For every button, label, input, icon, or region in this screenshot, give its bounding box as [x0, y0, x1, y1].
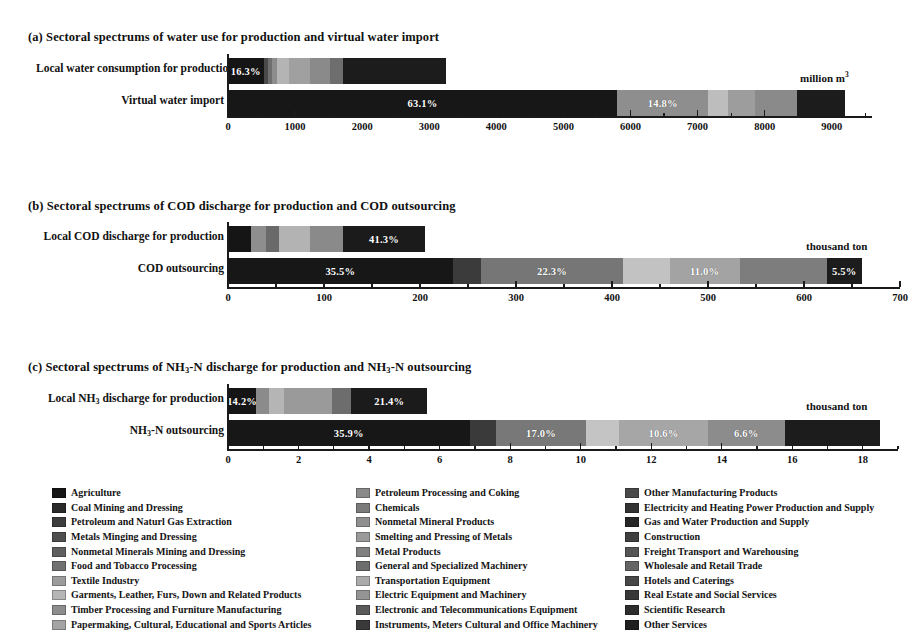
legend-item: Construction — [625, 530, 874, 545]
legend-label: Freight Transport and Warehousing — [644, 547, 798, 557]
bar-segment: 6.6% — [708, 420, 786, 446]
panel-c-row1-sub: 3 — [147, 429, 151, 438]
x-axis-tick — [563, 284, 564, 288]
x-axis-tick-label: 4000 — [486, 121, 507, 132]
bar-segment — [279, 226, 310, 252]
bar-segment: 14.2% — [228, 388, 256, 414]
bar-segment: 41.3% — [343, 226, 425, 252]
bar-segment: 16.3% — [228, 58, 264, 84]
bar-segment — [623, 258, 670, 284]
x-axis-tick-label: 9000 — [821, 121, 842, 132]
panel-c-title-part2: -N discharge for production and NH — [189, 360, 386, 374]
panel-a-title: (a) Sectoral spectrums of water use for … — [28, 30, 439, 45]
bar-segment — [330, 58, 343, 84]
bar-segment — [708, 90, 727, 116]
legend-label: Wholesale and Retail Trade — [644, 561, 762, 571]
x-axis-line-c — [228, 449, 898, 451]
legend-label: Metal Products — [375, 547, 441, 557]
x-axis-tick — [362, 110, 363, 116]
legend-label: Garments, Leather, Furs, Down and Relate… — [71, 590, 301, 600]
legend-label: Hotels and Caterings — [644, 576, 734, 586]
legend-label: Petroleum Processing and Coking — [375, 488, 519, 498]
legend-label: Electric Equipment and Machinery — [375, 590, 526, 600]
legend-color-swatch — [625, 503, 639, 513]
bar-segment — [470, 420, 496, 446]
bar-segment — [266, 226, 278, 252]
x-axis-tick — [764, 110, 765, 116]
legend-label: Transportation Equipment — [375, 576, 490, 586]
legend-item: Real Estate and Social Services — [625, 588, 874, 603]
x-axis-tick — [395, 113, 396, 117]
x-axis-tick — [659, 284, 660, 288]
x-axis-tick — [756, 446, 757, 450]
x-axis-tick-label: 12 — [646, 454, 657, 465]
x-axis-tick — [275, 284, 276, 288]
x-axis-tick — [707, 281, 708, 287]
bar-segment: 5.5% — [827, 258, 862, 284]
bar-a-0: 16.3% — [228, 58, 446, 84]
legend-color-swatch — [52, 620, 66, 630]
x-axis-tick-label: 3000 — [419, 121, 440, 132]
legend-column-2: Petroleum Processing and CokingChemicals… — [356, 486, 598, 632]
x-axis-tick — [563, 110, 564, 116]
x-axis-tick — [261, 113, 262, 117]
x-axis-tick-label: 0 — [225, 292, 230, 303]
legend-column-3: Other Manufacturing ProductsElectricity … — [625, 486, 874, 632]
legend-color-swatch — [356, 590, 370, 600]
panel-a-row-label-0: Local water consumption for production — [36, 62, 224, 74]
legend-label: Scientific Research — [644, 605, 725, 615]
legend-item: Metals Minging and Dressing — [52, 530, 311, 545]
x-axis-tick — [298, 443, 299, 449]
bar-b-0: 41.3% — [228, 226, 425, 252]
x-axis-tick — [792, 443, 793, 449]
x-axis-tick — [899, 281, 900, 287]
legend-item: Textile Industry — [52, 574, 311, 589]
panel-c-row0-sub: 3 — [96, 397, 100, 406]
x-axis-tick-label: 0 — [225, 454, 230, 465]
bar-segment — [740, 258, 827, 284]
legend-label: Petroleum and Naturl Gas Extraction — [71, 517, 232, 527]
legend-color-swatch — [625, 532, 639, 542]
bar-segment — [310, 58, 329, 84]
legend-label: Nonmetal Mineral Products — [375, 517, 494, 527]
x-axis-tick — [697, 110, 698, 116]
legend-label: Other Services — [644, 620, 707, 630]
segment-percent-label: 6.6% — [734, 428, 758, 439]
bar-segment — [332, 388, 351, 414]
legend-item: General and Specialized Machinery — [356, 559, 598, 574]
panel-c-title-sub2: 3 — [386, 365, 390, 375]
bar-segment — [284, 388, 332, 414]
legend-color-swatch — [52, 576, 66, 586]
x-axis-tick-label: 2000 — [352, 121, 373, 132]
segment-percent-label: 14.8% — [648, 98, 678, 109]
panel-a-unit: million m3 — [800, 70, 849, 84]
legend-color-swatch — [625, 547, 639, 557]
legend-color-swatch — [356, 605, 370, 615]
x-axis-tick — [596, 113, 597, 117]
x-axis-tick-label: 10 — [575, 454, 586, 465]
legend-label: Other Manufacturing Products — [644, 488, 778, 498]
x-axis-line-b — [228, 287, 900, 289]
x-axis-tick — [651, 443, 652, 449]
panel-c-row1-pre: NH — [130, 424, 147, 436]
legend-label: Electronic and Telecommunications Equipm… — [375, 605, 577, 615]
bar-segment: 35.9% — [228, 420, 470, 446]
legend-color-swatch — [625, 517, 639, 527]
bar-segment — [453, 258, 482, 284]
legend-item: Transportation Equipment — [356, 574, 598, 589]
legend-color-swatch — [356, 532, 370, 542]
panel-c-title-part1: (c) Sectoral spectrums of NH — [28, 360, 185, 374]
legend-item: Agriculture — [52, 486, 311, 501]
panel-b-row-label-0: Local COD discharge for production — [36, 230, 224, 242]
legend-item: Other Services — [625, 617, 874, 632]
panel-c-row1-post: -N outsourcing — [151, 424, 224, 436]
legend-label: Food and Tobacco Processing — [71, 561, 197, 571]
legend-item: Smelting and Pressing of Metals — [356, 530, 598, 545]
legend-item: Other Manufacturing Products — [625, 486, 874, 501]
x-axis-tick-label: 8 — [507, 454, 512, 465]
segment-percent-label: 16.3% — [231, 66, 261, 77]
y-axis-cap-c — [227, 384, 229, 451]
bar-segment — [755, 90, 798, 116]
panel-b-row-label-1: COD outsourcing — [36, 262, 224, 274]
x-axis-tick — [419, 281, 420, 287]
